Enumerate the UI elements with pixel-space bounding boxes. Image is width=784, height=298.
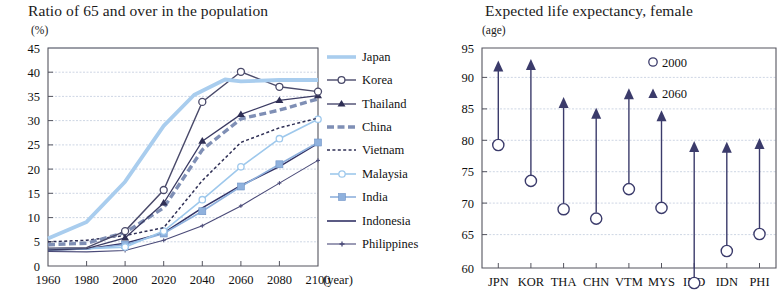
svg-text:2020: 2020 <box>151 273 176 287</box>
left-chart-panel: Ratio of 65 and over in the population (… <box>0 0 440 298</box>
legend-item-india[interactable]: India <box>330 190 388 204</box>
legend-label-china: China <box>362 120 392 134</box>
right-chart-svg: 95 90 85 80 75 70 65 60 JPN KOR THA CHN … <box>440 0 784 298</box>
legend-item-korea[interactable]: Korea <box>327 73 393 87</box>
right-x-category-labels: JPN KOR THA CHN VTM MYS IND IDN PHI <box>488 275 770 289</box>
legend-item-china[interactable]: China <box>327 120 392 134</box>
left-chart-legend: Japan Korea Thailand China <box>327 50 418 251</box>
legend-label-malaysia: Malaysia <box>362 167 408 181</box>
svg-text:25: 25 <box>28 138 41 152</box>
legend-item-2060[interactable]: 2060 <box>648 87 687 101</box>
svg-text:85: 85 <box>462 102 475 116</box>
legend-label-japan: Japan <box>362 50 391 64</box>
svg-text:60: 60 <box>462 262 475 276</box>
svg-text:MYS: MYS <box>648 275 675 289</box>
svg-text:80: 80 <box>462 134 475 148</box>
svg-text:IDN: IDN <box>716 275 738 289</box>
svg-text:90: 90 <box>462 71 475 85</box>
right-y-ticks <box>482 77 487 234</box>
legend-label-india: India <box>362 190 388 204</box>
right-chart-legend: 2000 2060 <box>648 56 687 101</box>
right-arrow-group <box>498 69 759 277</box>
left-x-ticks <box>87 261 280 266</box>
left-x-tick-labels: 1960 1980 2000 2020 2040 2060 2080 2100 … <box>36 273 353 287</box>
svg-text:45: 45 <box>28 42 41 56</box>
svg-text:2080: 2080 <box>267 273 292 287</box>
series-india <box>48 139 322 250</box>
svg-text:75: 75 <box>462 165 475 179</box>
svg-text:2060: 2060 <box>228 273 253 287</box>
svg-text:(year): (year) <box>323 273 353 287</box>
legend-filled-triangle-icon <box>648 89 657 99</box>
svg-text:35: 35 <box>28 90 41 104</box>
svg-text:CHN: CHN <box>583 275 609 289</box>
svg-text:2000: 2000 <box>113 273 138 287</box>
svg-text:1980: 1980 <box>74 273 99 287</box>
right-chart-panel: Expected life expectancy, female (age) <box>440 0 784 298</box>
legend-label-thailand: Thailand <box>362 97 407 111</box>
legend-label-philippines: Philippines <box>362 237 418 251</box>
left-y-tick-labels: 45 40 35 30 25 20 15 10 5 0 <box>28 42 41 274</box>
legend-label-indonesia: Indonesia <box>362 214 411 228</box>
right-y-tick-labels: 95 90 85 80 75 70 65 60 <box>462 42 475 276</box>
legend-item-thailand[interactable]: Thailand <box>327 97 407 111</box>
legend-item-vietnam[interactable]: Vietnam <box>327 143 405 157</box>
svg-text:15: 15 <box>28 187 41 201</box>
svg-text:5: 5 <box>34 235 40 249</box>
left-chart-svg: 45 40 35 30 25 20 15 10 5 0 1960 1980 20… <box>0 0 440 298</box>
svg-text:65: 65 <box>462 228 475 242</box>
svg-text:30: 30 <box>28 114 41 128</box>
svg-text:20: 20 <box>28 163 41 177</box>
svg-text:10: 10 <box>28 211 41 225</box>
svg-text:40: 40 <box>28 66 41 80</box>
svg-text:KOR: KOR <box>518 275 545 289</box>
svg-text:70: 70 <box>462 197 475 211</box>
right-x-ticks <box>498 263 759 268</box>
svg-text:0: 0 <box>34 260 40 274</box>
svg-text:VTM: VTM <box>615 275 643 289</box>
series-thailand <box>48 92 322 250</box>
svg-text:PHI: PHI <box>749 275 769 289</box>
legend-open-circle-icon <box>649 58 657 66</box>
legend-item-japan[interactable]: Japan <box>327 50 391 64</box>
series-philippines <box>48 158 320 252</box>
svg-text:JPN: JPN <box>488 275 509 289</box>
svg-text:THA: THA <box>551 275 577 289</box>
left-series-plot <box>48 68 322 252</box>
svg-text:2040: 2040 <box>190 273 215 287</box>
legend-label-2000: 2000 <box>662 56 687 70</box>
legend-item-2000[interactable]: 2000 <box>649 56 687 70</box>
figure-container: Ratio of 65 and over in the population (… <box>0 0 784 298</box>
legend-item-malaysia[interactable]: Malaysia <box>330 167 408 181</box>
legend-item-philippines[interactable]: Philippines <box>327 237 418 251</box>
svg-text:95: 95 <box>462 42 475 56</box>
legend-label-2060: 2060 <box>662 87 687 101</box>
svg-text:1960: 1960 <box>36 273 61 287</box>
legend-item-indonesia[interactable]: Indonesia <box>327 214 411 228</box>
left-y-ticks <box>48 72 53 242</box>
legend-label-korea: Korea <box>362 73 393 87</box>
series-indonesia <box>48 143 318 250</box>
legend-label-vietnam: Vietnam <box>362 143 405 157</box>
